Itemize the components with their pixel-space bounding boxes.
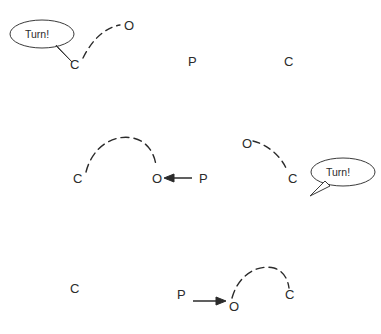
- arrow-head-bottom-right: [216, 297, 226, 305]
- speech-bubble-label-top-left: Turn!: [25, 29, 49, 40]
- atom-label-oxygen-middle-right: O: [242, 137, 252, 150]
- atom-label-carbon-middle-left: C: [73, 172, 82, 185]
- atom-label-phosphorus-bottom-right: P: [177, 288, 186, 301]
- molecular-turn-diagram: Turn! C O P C C O P O C Turn! C P O C: [0, 0, 381, 334]
- speech-bubble-tail-middle-right: [310, 181, 330, 196]
- bond-curve-middle-right: [253, 141, 286, 168]
- atom-label-carbon-top-right: C: [284, 55, 293, 68]
- atom-label-oxygen-bottom-right: O: [229, 300, 239, 313]
- bond-curve-middle-left: [86, 137, 156, 172]
- atom-label-carbon-bottom-left: C: [70, 282, 79, 295]
- atom-label-oxygen-top-left: O: [124, 19, 134, 32]
- bond-curve-top-left: [83, 25, 120, 58]
- atom-label-carbon-top-left: C: [70, 58, 79, 71]
- arrow-head-middle-left: [164, 174, 174, 182]
- bond-curve-bottom-right: [232, 267, 289, 298]
- atom-label-carbon-bottom-right: C: [285, 288, 294, 301]
- atom-label-oxygen-middle-left: O: [152, 172, 162, 185]
- diagram-canvas: [0, 0, 381, 334]
- atom-label-phosphorus-middle-left: P: [199, 172, 208, 185]
- atom-label-carbon-middle-right: C: [288, 172, 297, 185]
- atom-label-phosphorus-top-middle: P: [188, 55, 197, 68]
- speech-bubble-label-middle-right: Turn!: [326, 167, 350, 178]
